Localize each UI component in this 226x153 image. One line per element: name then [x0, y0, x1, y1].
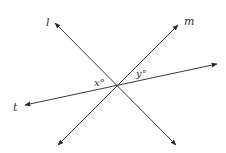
angle-label-y: y° [135, 68, 147, 79]
intersecting-lines-diagram: lmtx°y° [0, 0, 226, 153]
lines-group [25, 23, 217, 145]
angle-label-x: x° [94, 77, 105, 88]
line-l [55, 23, 176, 145]
line-label-t: t [13, 101, 18, 114]
line-label-l: l [46, 16, 50, 29]
line-t [25, 64, 217, 105]
line-label-m: m [184, 15, 194, 28]
